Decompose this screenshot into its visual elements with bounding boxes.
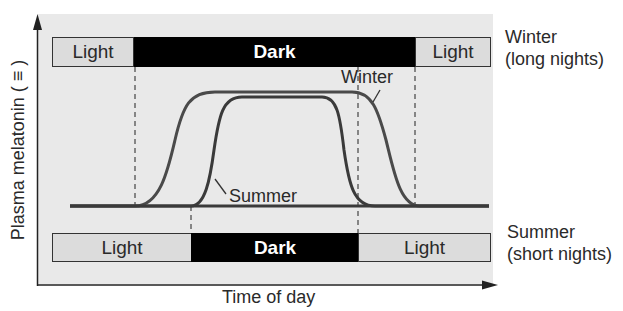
segment-label: Light [432,41,473,63]
season-subtitle: (short nights) [507,243,612,265]
y-axis-label: Plasma melatonin ( ≡ ) [8,25,32,275]
season-title: Winter [505,26,604,48]
segment-label: Light [404,237,445,259]
winter-curve-label: Winter [341,67,393,88]
season-title: Summer [507,221,612,243]
arrow-up-icon [33,14,42,30]
y-axis [33,14,42,286]
summer-curve-label: Summer [229,186,297,207]
x-axis-label: Time of day [222,287,315,308]
winter-dark-segment: Dark [134,37,415,67]
segment-label: Dark [254,237,296,259]
summer-light-segment-1: Light [52,233,192,262]
segment-label: Dark [253,41,295,63]
summer-light-segment-2: Light [358,233,491,262]
summer-season-label: Summer (short nights) [507,221,612,265]
winter-leader-line [373,90,380,102]
winter-light-segment-2: Light [415,37,491,67]
segment-label: Light [101,237,142,259]
winter-light-segment-1: Light [52,37,134,67]
summer-leader-line [215,179,226,194]
season-subtitle: (long nights) [505,48,604,70]
winter-season-label: Winter (long nights) [505,26,604,70]
summer-dark-segment: Dark [191,233,359,262]
arrow-right-icon [482,281,498,290]
segment-label: Light [72,41,113,63]
